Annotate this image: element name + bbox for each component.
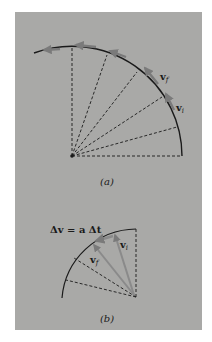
circular-path-arc: [34, 46, 182, 156]
part-b: Δv = a Δt vi vf (b): [50, 224, 136, 324]
radius-lines: [72, 46, 182, 156]
caption-b: (b): [100, 313, 114, 324]
label-vi: vi: [175, 102, 184, 115]
label-vf: vf: [159, 71, 170, 84]
label-vf-b: vf: [89, 254, 100, 267]
part-a: vf vi (a): [34, 45, 184, 187]
equation: Δv = a Δt: [50, 224, 102, 235]
velocity-arrows: [44, 45, 174, 110]
center-point: [70, 154, 74, 158]
caption-a: (a): [100, 176, 114, 187]
circular-motion-diagram: vf vi (a) Δv = a Δt vi vf (b): [0, 0, 212, 342]
